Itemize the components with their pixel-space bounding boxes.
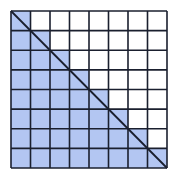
shaded-cell — [31, 129, 51, 149]
shaded-cell — [50, 109, 70, 129]
shaded-cell — [109, 129, 129, 149]
shaded-cell — [128, 148, 148, 168]
shaded-cell — [89, 148, 109, 168]
shaded-cell — [89, 129, 109, 149]
shaded-cell — [11, 129, 31, 149]
shaded-cell — [70, 129, 90, 149]
shaded-cell — [89, 109, 109, 129]
shaded-cell — [70, 109, 90, 129]
shaded-cell — [70, 90, 90, 110]
shaded-cell — [31, 90, 51, 110]
shaded-cell — [11, 109, 31, 129]
shaded-cell — [70, 148, 90, 168]
shaded-cell — [31, 70, 51, 90]
shaded-cell — [31, 50, 51, 70]
shaded-cell — [31, 148, 51, 168]
shaded-cell — [11, 31, 31, 51]
shaded-cell — [11, 148, 31, 168]
shaded-cell — [50, 129, 70, 149]
shaded-cell — [50, 70, 70, 90]
shaded-cell — [109, 148, 129, 168]
shaded-cell — [11, 90, 31, 110]
shaded-cell — [50, 90, 70, 110]
staircase-grid-diagram — [0, 0, 176, 179]
shaded-cell — [50, 148, 70, 168]
shaded-cell — [11, 70, 31, 90]
shaded-cell — [11, 50, 31, 70]
shaded-cell — [31, 109, 51, 129]
